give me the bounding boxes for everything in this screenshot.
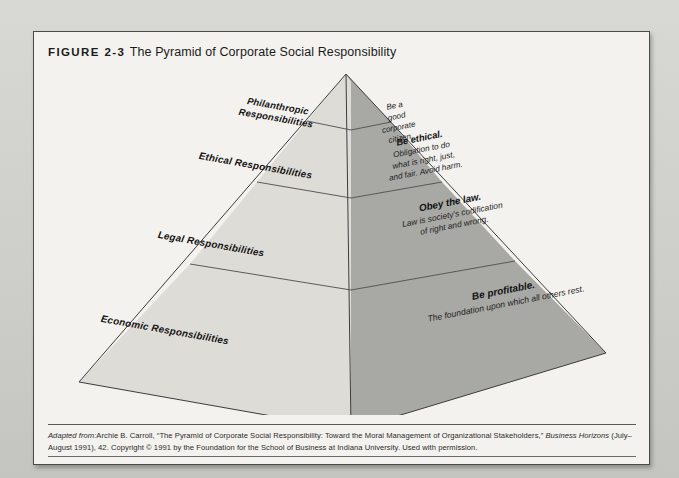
- tier-4-left-face: [307, 74, 351, 130]
- source-divider-top: [48, 424, 636, 425]
- pyramid-diagram: Philanthropic Responsibilities Ethical R…: [34, 70, 651, 415]
- figure-frame: FIGURE 2-3 The Pyramid of Corporate Soci…: [33, 31, 650, 465]
- source-journal: Business Horizons: [545, 431, 609, 440]
- pyramid-svg: [34, 70, 651, 415]
- source-prefix: Adapted from:: [48, 431, 96, 440]
- figure-number: FIGURE 2-3: [48, 46, 125, 58]
- source-divider-bottom: [48, 456, 636, 457]
- figure-title: The Pyramid of Corporate Social Responsi…: [130, 45, 397, 59]
- figure-header: FIGURE 2-3 The Pyramid of Corporate Soci…: [48, 42, 608, 64]
- figure-page: FIGURE 2-3 The Pyramid of Corporate Soci…: [0, 0, 679, 478]
- source-note: Adapted from:Archie B. Carroll, “The Pyr…: [48, 430, 638, 453]
- source-text-1: Archie B. Carroll, “The Pyramid of Corpo…: [96, 431, 545, 440]
